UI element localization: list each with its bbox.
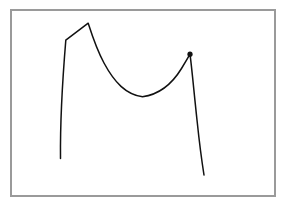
figure-canvas bbox=[0, 0, 283, 208]
figure-background bbox=[0, 0, 283, 208]
drawing-surface bbox=[0, 0, 283, 208]
right-peak-dot bbox=[187, 52, 192, 57]
